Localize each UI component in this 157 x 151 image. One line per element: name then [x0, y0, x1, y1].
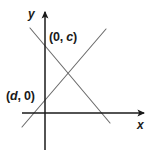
x-axis-label: x: [137, 119, 144, 131]
y-axis-label: y: [28, 8, 35, 20]
coordinate-plane-figure: y x (0, c) (d, 0): [0, 0, 157, 151]
y-intercept-close-paren: ): [73, 30, 77, 44]
x-intercept-close-paren: ): [31, 89, 35, 103]
x-intercept-y-value: 0: [24, 89, 31, 103]
graph-canvas: [0, 0, 157, 151]
y-intercept-x-value: 0: [53, 30, 60, 44]
x-intercept-label: (d, 0): [6, 90, 35, 103]
y-intercept-label: (0, c): [49, 31, 77, 44]
